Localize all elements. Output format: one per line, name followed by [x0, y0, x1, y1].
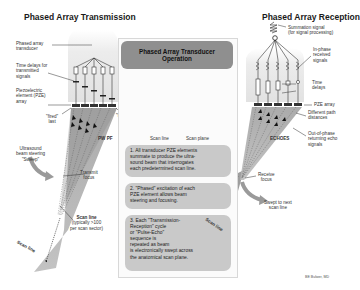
swept-arrow — [242, 182, 262, 200]
label-line: transducer — [16, 46, 43, 51]
label-summation-signal: Summation signal (for signal processing) — [288, 25, 333, 36]
step-line: each predetermined scan line. — [130, 166, 226, 172]
left-section-title: Phased Array Transmission — [24, 12, 136, 22]
step-line: steering and focusing. — [130, 198, 226, 204]
step-2-box: 2. "Phased" excitation of each PZE eleme… — [125, 183, 231, 209]
right-transducer-glow — [246, 48, 304, 102]
label-swept: Swept to next scan line — [264, 200, 292, 211]
label-fired-last: "fired" last — [46, 114, 58, 125]
right-section-title: Phased Array Reception — [262, 12, 360, 22]
label-line: array — [16, 99, 46, 104]
label-line: "Sweep" — [16, 157, 45, 162]
label-line: delays — [312, 85, 325, 90]
label-line: signals — [16, 74, 47, 79]
operation-title-line: Operation — [139, 55, 215, 63]
label-center-scan-line: Scan line — [150, 136, 169, 141]
left-beam — [34, 108, 117, 272]
label-path-distances: Different path distances — [308, 110, 336, 121]
label-line: focus — [80, 175, 98, 180]
label-line: signals — [308, 142, 337, 147]
right-pze-array — [254, 103, 302, 106]
step-1-box: 1. All transducer PZE elements summate t… — [125, 145, 231, 177]
label-line: per scan sector) — [70, 226, 103, 231]
operation-title-line: Phased Array Transducer — [139, 48, 215, 56]
label-receive-focus: Receive focus — [258, 172, 275, 183]
label-line: focus — [258, 177, 275, 182]
label-line: signals — [313, 58, 331, 63]
label-time-delays-right: Time delays — [312, 80, 325, 91]
label-scan-plane: Scan plane — [186, 136, 209, 141]
label-scan-line-note: Scan line (typically >100 per scan secto… — [70, 215, 103, 231]
label-echoes: ECHOES — [270, 136, 289, 141]
label-out-of-phase: Out-of-phase returning echo signals — [308, 131, 337, 147]
step-line: the anatomical scan plane. — [130, 255, 226, 261]
label-in-phase: In-phase received signals — [313, 47, 331, 63]
label-phased-array-transducer: Phased array transducer — [16, 41, 43, 52]
author-credit: BE Bulwer, MD — [305, 275, 329, 279]
label-time-delays: Time delays for transmitted signals — [16, 63, 47, 79]
label-line: last — [46, 119, 58, 124]
label-line: distances — [308, 115, 336, 120]
label-beam-steering: Ultrasound beam steering "Sweep" — [16, 146, 45, 162]
label-transmit-focus: Transmit focus — [80, 170, 98, 181]
label-wavefront: PW PF — [98, 136, 113, 141]
label-pze-array-right: PZE array — [314, 102, 335, 107]
label-line: scan line — [264, 205, 292, 210]
summation-signal-icon — [270, 22, 277, 33]
label-line: (for signal processing) — [288, 30, 333, 35]
left-pze-array — [72, 104, 116, 107]
right-beam — [240, 107, 302, 180]
operation-header: Phased Array Transducer Operation — [121, 41, 233, 69]
label-pze: Piezoelectric element (PZE) array — [16, 88, 46, 104]
